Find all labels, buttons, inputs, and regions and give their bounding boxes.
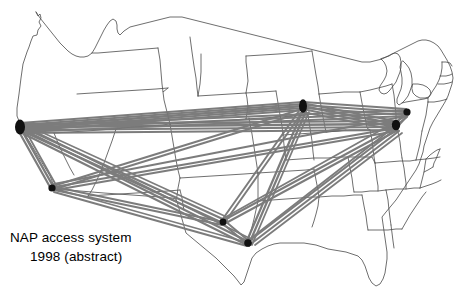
node-san-francisco bbox=[15, 120, 25, 135]
network-links bbox=[18, 102, 409, 246]
link-hou-dc bbox=[249, 129, 402, 245]
caption-line-2: 1998 (abstract) bbox=[8, 247, 168, 266]
node-los-angeles bbox=[48, 184, 55, 191]
caption-line-1: NAP access system bbox=[8, 228, 168, 247]
node-dallas bbox=[220, 219, 227, 226]
node-new-york bbox=[403, 108, 410, 115]
node-chicago bbox=[299, 99, 307, 113]
node-houston bbox=[244, 239, 252, 247]
figure-caption: NAP access system 1998 (abstract) bbox=[8, 228, 168, 266]
nap-access-system-figure: NAP access system 1998 (abstract) bbox=[0, 0, 462, 300]
node-washington-dc bbox=[392, 120, 400, 130]
